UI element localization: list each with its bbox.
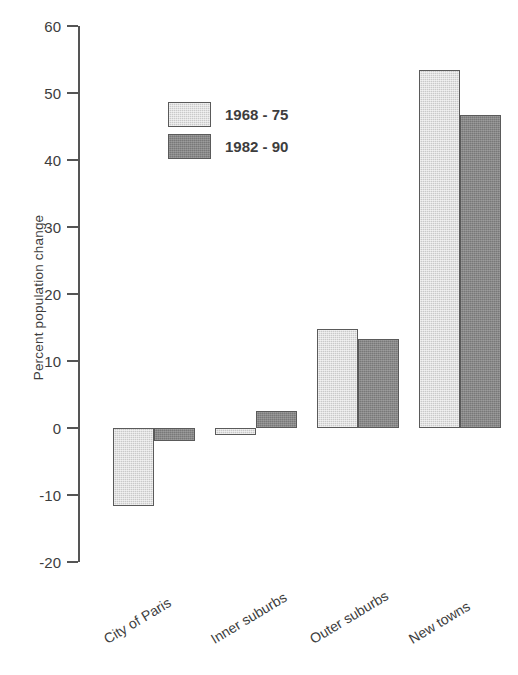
y-tick-label: 40 xyxy=(44,152,61,169)
y-tick-0: 0 xyxy=(67,427,78,429)
y-tick-10: 10 xyxy=(67,360,78,362)
y-tick-label: 20 xyxy=(44,286,61,303)
bar xyxy=(419,70,460,428)
legend-swatch-1968-75 xyxy=(168,102,211,127)
x-axis-label: City of Paris xyxy=(101,594,174,647)
bar xyxy=(358,339,399,428)
y-tick-neg10: -10 xyxy=(67,494,78,496)
y-tick-label: 30 xyxy=(44,219,61,236)
x-axis-label: Inner suburbs xyxy=(208,589,290,647)
bar xyxy=(113,428,154,506)
legend-label-1968-75: 1968 - 75 xyxy=(225,106,288,123)
bar xyxy=(460,115,501,428)
y-axis-title: Percent population change xyxy=(31,168,46,428)
y-tick-40: 40 xyxy=(67,159,78,161)
legend-item: 1982 - 90 xyxy=(168,130,288,162)
legend: 1968 - 75 1982 - 90 xyxy=(168,98,288,162)
bar-chart: Percent population change 6050403020100-… xyxy=(0,0,518,675)
y-tick-20: 20 xyxy=(67,293,78,295)
x-axis-label: Outer suburbs xyxy=(307,587,391,646)
y-tick-label: 60 xyxy=(44,18,61,35)
y-tick-label: 0 xyxy=(53,420,61,437)
legend-swatch-1982-90 xyxy=(168,134,211,159)
bar xyxy=(317,329,358,428)
y-tick-label: -20 xyxy=(39,554,61,571)
y-tick-50: 50 xyxy=(67,92,78,94)
y-axis-line xyxy=(78,26,80,562)
y-tick-label: -10 xyxy=(39,487,61,504)
legend-label-1982-90: 1982 - 90 xyxy=(225,138,288,155)
y-tick-label: 10 xyxy=(44,353,61,370)
plot-area: 6050403020100-10-20 xyxy=(78,26,506,562)
y-tick-neg20: -20 xyxy=(67,561,78,563)
x-axis-label: New towns xyxy=(406,598,473,647)
bar xyxy=(215,428,256,435)
y-tick-30: 30 xyxy=(67,226,78,228)
bar xyxy=(154,428,195,441)
y-tick-60: 60 xyxy=(67,25,78,27)
legend-item: 1968 - 75 xyxy=(168,98,288,130)
y-tick-label: 50 xyxy=(44,85,61,102)
bar xyxy=(256,411,297,428)
